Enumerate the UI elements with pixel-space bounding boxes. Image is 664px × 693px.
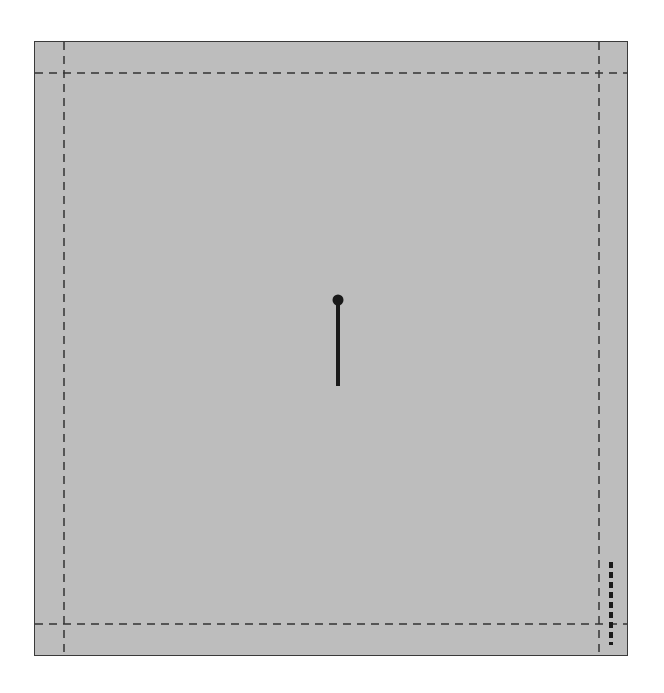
pin-head-icon (333, 295, 344, 306)
diagram-overlay (0, 0, 664, 693)
